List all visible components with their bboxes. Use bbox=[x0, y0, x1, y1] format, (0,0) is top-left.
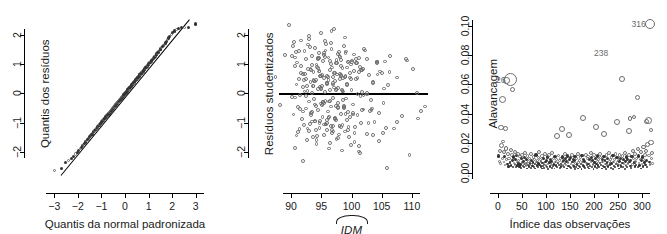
data-point bbox=[306, 89, 310, 93]
panel-c-x-tick bbox=[498, 194, 499, 198]
panel-a-y-ticklabel: −2 bbox=[12, 146, 23, 158]
data-point bbox=[287, 23, 291, 27]
panel-b-x-tick bbox=[412, 194, 413, 198]
panel-b-x-ticklabel: 100 bbox=[343, 201, 361, 212]
data-point bbox=[650, 157, 653, 160]
data-point bbox=[395, 120, 399, 124]
data-point bbox=[331, 81, 335, 85]
data-point bbox=[298, 93, 302, 97]
data-point bbox=[368, 109, 372, 113]
data-point bbox=[304, 94, 308, 98]
data-point bbox=[283, 53, 287, 57]
panel-c-x-ticklabel: 200 bbox=[585, 201, 603, 212]
data-point bbox=[331, 124, 335, 128]
data-point bbox=[331, 130, 335, 134]
data-point bbox=[305, 138, 309, 142]
data-point bbox=[574, 168, 576, 170]
data-point bbox=[310, 54, 314, 58]
data-point bbox=[365, 132, 369, 136]
point-label: 238 bbox=[594, 49, 608, 58]
panel-b-x-tick bbox=[352, 194, 353, 198]
panel-c-x-ticklabel: 50 bbox=[516, 201, 528, 212]
panel-a-x-axis-title: Quantis da normal padronizada bbox=[45, 219, 205, 231]
data-point bbox=[301, 85, 305, 89]
data-point bbox=[318, 85, 322, 89]
data-point bbox=[502, 150, 506, 154]
panel-c-x-tick bbox=[522, 194, 523, 198]
point-label: 316 bbox=[631, 19, 645, 28]
data-point bbox=[311, 84, 315, 88]
data-point bbox=[336, 136, 340, 140]
data-point bbox=[351, 111, 355, 115]
data-point bbox=[624, 168, 626, 170]
data-point bbox=[293, 64, 297, 68]
panel-b-y-axis-title: Resíduos studentizados bbox=[264, 23, 276, 163]
panel-a-x-ticklabel: −3 bbox=[48, 201, 60, 212]
data-point bbox=[343, 36, 347, 40]
panel-b-x-axis-title: IDM bbox=[322, 215, 382, 234]
panel-a-x-tick bbox=[196, 194, 197, 198]
data-point bbox=[336, 106, 340, 110]
data-point bbox=[651, 162, 654, 165]
highlighted-point bbox=[635, 95, 640, 100]
panel-b-x-tick bbox=[321, 194, 322, 198]
panel-a-x-ticklabel: 0 bbox=[122, 201, 128, 212]
hat-accent bbox=[336, 215, 368, 224]
panel-b-y-ticklabel: 1 bbox=[236, 61, 247, 67]
panel-a-y-ticklabel: 0 bbox=[12, 90, 23, 96]
data-point bbox=[327, 115, 331, 119]
data-point bbox=[303, 49, 307, 53]
panel-a-y-ticklabel: 1 bbox=[12, 61, 23, 67]
data-point bbox=[329, 62, 333, 66]
data-point bbox=[323, 90, 327, 94]
panel-c-x-ticklabel: 300 bbox=[633, 201, 651, 212]
data-point bbox=[354, 57, 358, 61]
data-point bbox=[307, 100, 311, 104]
data-point bbox=[293, 96, 297, 100]
data-point bbox=[338, 55, 342, 59]
panel-c-y-ticklabel: 0.10 bbox=[460, 16, 471, 36]
panel-a-x-tick bbox=[54, 194, 55, 198]
panel-a-x-tick bbox=[172, 194, 173, 198]
data-point bbox=[415, 91, 419, 95]
data-point bbox=[305, 84, 309, 88]
panel-a-x-tick bbox=[149, 194, 150, 198]
panel-c-x-tick bbox=[594, 194, 595, 198]
data-point bbox=[377, 139, 381, 143]
panel-a-x-tick bbox=[125, 194, 126, 198]
data-point bbox=[299, 71, 303, 75]
data-point bbox=[350, 88, 354, 92]
data-point bbox=[499, 162, 502, 165]
data-point bbox=[313, 46, 317, 50]
data-point bbox=[310, 91, 314, 95]
panel-b-x-ticklabel: 95 bbox=[315, 201, 327, 212]
data-point bbox=[334, 118, 338, 122]
panel-a-x-ticklabel: −2 bbox=[72, 201, 84, 212]
data-point bbox=[392, 127, 396, 131]
data-point bbox=[322, 101, 326, 105]
panel-b-x-ticklabel: 105 bbox=[373, 201, 391, 212]
data-point bbox=[349, 143, 353, 147]
data-point bbox=[612, 168, 614, 170]
highlighted-point bbox=[644, 119, 649, 124]
data-point bbox=[309, 67, 313, 71]
data-point bbox=[648, 140, 653, 145]
data-point bbox=[302, 78, 306, 82]
highlighted-point bbox=[645, 19, 655, 29]
panel-c-x-ticklabel: 0 bbox=[495, 201, 501, 212]
data-point bbox=[328, 141, 332, 145]
data-point bbox=[346, 128, 350, 132]
panel-c-y-ticklabel: 0.00 bbox=[460, 162, 471, 182]
data-point bbox=[626, 128, 632, 134]
panel-b-y-ticklabel: 2 bbox=[236, 32, 247, 38]
panel-a-x-tick bbox=[78, 194, 79, 198]
panel-a-y-axis-title: Quantis dos resíduos bbox=[40, 23, 52, 163]
x-axis-title-text: IDM bbox=[322, 225, 382, 234]
panel-c-x-tick bbox=[618, 194, 619, 198]
panel-a-x-ticklabel: −1 bbox=[95, 201, 107, 212]
data-point bbox=[60, 167, 63, 170]
data-point bbox=[362, 47, 366, 51]
panel-a-x-tick bbox=[101, 194, 102, 198]
data-point bbox=[520, 167, 522, 169]
data-point bbox=[614, 119, 620, 125]
